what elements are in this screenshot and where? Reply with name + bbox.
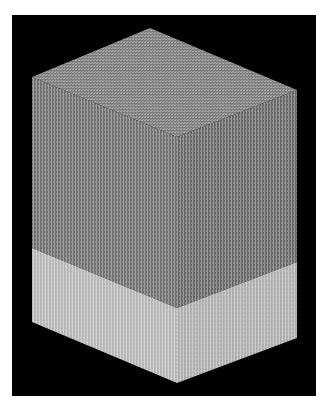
figure-canvas (0, 0, 332, 416)
isometric-lattice-block (0, 0, 332, 416)
